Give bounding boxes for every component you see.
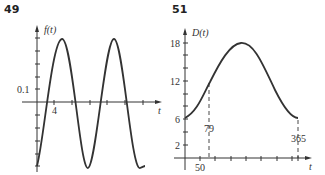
chart-51 [174,28,312,170]
charts-canvas: f(t) t 0.1 4 [0,0,325,175]
chart-49-xtick-label: 4 [52,105,57,116]
chart-49-ylabel: f(t) [44,24,57,36]
chart-51-marker-365: 365 [291,133,306,144]
chart-51-ylabel: D(t) [191,27,209,39]
chart-51-ytick-18: 18 [170,38,180,49]
chart-51-ytick-6: 6 [175,114,180,125]
chart-49 [22,25,162,172]
chart-49-xlabel: t [158,105,161,116]
chart-51-xtick-50: 50 [195,162,205,173]
chart-51-xlabel: t [309,161,312,172]
chart-51-ytick-2: 2 [175,140,180,151]
chart-51-ytick-12: 12 [170,76,180,87]
chart-49-ytick-label: 0.1 [17,84,30,95]
chart-51-marker-79: 79 [204,123,214,134]
